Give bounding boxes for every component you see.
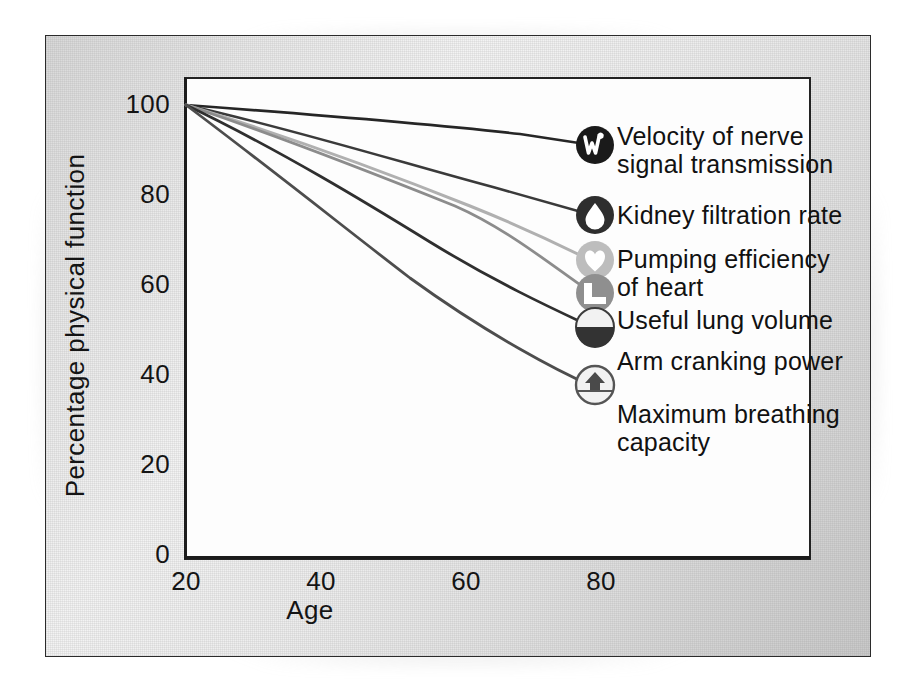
y-tick-label-40: 40 [90,359,170,390]
x-tick-label-60: 60 [448,566,484,597]
y-tick-label-0: 0 [90,539,170,570]
legend-label-breathing-line2: capacity [617,428,710,457]
legend-label-arm: Arm cranking power [617,347,843,376]
y-tick-label-80: 80 [90,179,170,210]
x-tick-label-20: 20 [168,566,204,597]
legend-label-lung: Useful lung volume [617,306,833,335]
legend-label-nerve-line2: signal transmission [617,150,833,179]
legend-label-kidney: Kidney filtration rate [617,201,842,230]
legend-label-breathing-line1: Maximum breathing [617,400,840,429]
y-tick-label-100: 100 [90,89,170,120]
y-tick-label-20: 20 [90,449,170,480]
legend-label-nerve-line1: Velocity of nerve [617,122,804,151]
x-tick-label-40: 40 [303,566,339,597]
x-tick-label-80: 80 [583,566,619,597]
x-axis-title: Age [0,595,620,626]
legend-label-heart-line2: of heart [617,273,703,302]
y-tick-label-60: 60 [90,269,170,300]
y-axis-title: Percentage physical function [60,136,91,516]
legend-label-heart-line1: Pumping efficiency [617,245,830,274]
figure-page: 100 80 60 40 20 0 20 40 60 80 Age Percen… [0,0,917,700]
